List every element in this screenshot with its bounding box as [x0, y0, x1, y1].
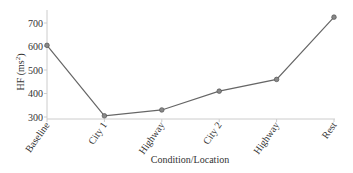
hf-line-chart: 300400500600700 BaselineCity 1HighwayCit…	[0, 0, 353, 173]
data-point-marker	[217, 89, 222, 94]
data-series	[45, 15, 337, 118]
data-point-marker	[160, 108, 165, 113]
x-axis-ticks: BaselineCity 1HighwayCity 2HighwayRest	[23, 119, 339, 156]
data-point-marker	[274, 77, 279, 82]
x-tick-label: City 2	[201, 120, 224, 147]
x-tick-label: Rest	[319, 120, 338, 141]
data-point-marker	[332, 15, 337, 20]
y-axis-label: HF (ms2)	[14, 53, 27, 90]
series-line	[47, 17, 334, 116]
y-tick-label: 400	[28, 88, 43, 99]
y-axis-ticks: 300400500600700	[28, 18, 47, 123]
y-tick-label: 500	[28, 65, 43, 76]
y-tick-label: 700	[28, 18, 43, 29]
y-tick-label: 600	[28, 41, 43, 52]
x-tick-label: City 1	[86, 120, 109, 147]
data-point-marker	[45, 43, 50, 48]
x-tick-label: Baseline	[23, 119, 52, 154]
x-axis-label: Condition/Location	[151, 154, 229, 165]
chart-axes	[47, 10, 335, 119]
x-tick-label: Highway	[136, 120, 166, 156]
data-point-marker	[102, 114, 107, 119]
x-tick-label: Highway	[251, 120, 281, 156]
